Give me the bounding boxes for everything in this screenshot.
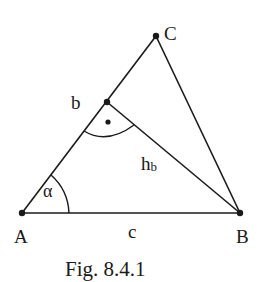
vertex-C-dot xyxy=(153,33,159,39)
triangle-diagram: C b hb α A c B Fig. 8.4.1 xyxy=(0,0,264,282)
right-angle-arc xyxy=(84,125,134,137)
vertex-A-dot xyxy=(19,210,25,216)
label-c: c xyxy=(128,221,136,242)
label-hb-sub: b xyxy=(151,159,158,174)
label-hb: hb xyxy=(141,153,157,174)
label-B: B xyxy=(236,226,249,247)
figure-caption: Fig. 8.4.1 xyxy=(65,257,146,281)
label-hb-main: h xyxy=(141,153,151,174)
vertex-B-dot xyxy=(237,210,243,216)
angle-alpha-arc xyxy=(51,175,69,213)
right-angle-dot xyxy=(105,119,110,124)
label-b: b xyxy=(71,92,81,113)
label-A: A xyxy=(14,226,28,247)
label-C: C xyxy=(164,23,177,44)
label-alpha: α xyxy=(43,181,53,201)
foot-H-dot xyxy=(104,99,110,105)
side-CB xyxy=(156,36,240,213)
altitude-hb xyxy=(107,102,240,213)
